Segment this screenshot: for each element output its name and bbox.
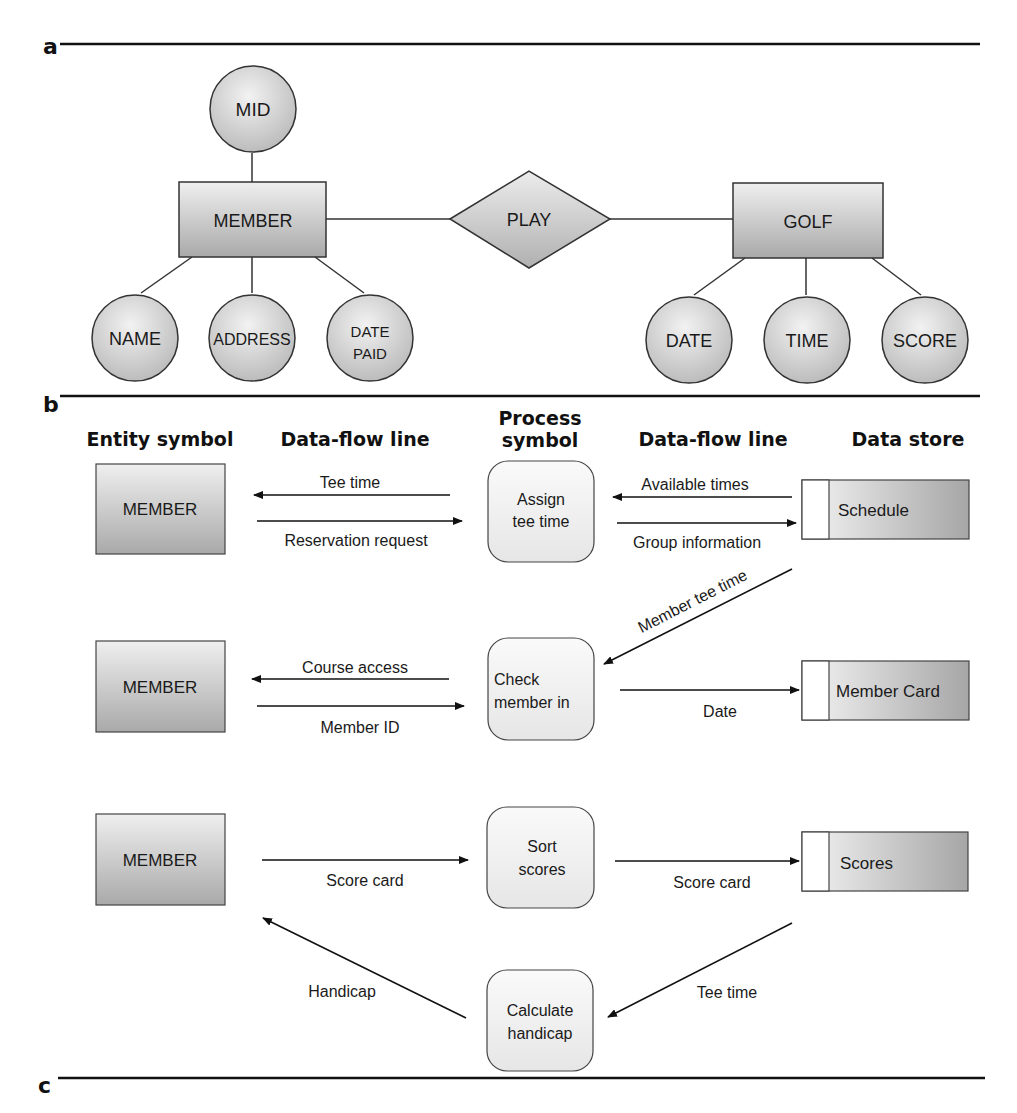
er-diagram: MID MEMBER PLAY GOLF NAME ADDRESS DATE [92, 66, 968, 383]
svg-text:SCORE: SCORE [893, 331, 957, 351]
panel-c-header: c [38, 1073, 985, 1098]
svg-text:scores: scores [518, 861, 565, 878]
attribute-name: NAME [92, 295, 178, 381]
header-data-store: Data store [852, 428, 965, 450]
dfd-row-2: MEMBER Course access Member ID Check mem… [96, 638, 969, 740]
svg-text:NAME: NAME [109, 329, 161, 349]
flow-label: Score card [326, 872, 403, 889]
process-assign-tee-time: Assign tee time [488, 461, 594, 562]
svg-text:ADDRESS: ADDRESS [213, 331, 290, 348]
entity-member-3: MEMBER [96, 814, 225, 905]
process-calculate-handicap: Calculate handicap [487, 970, 593, 1071]
header-data-flow-left: Data-flow line [280, 428, 429, 450]
panel-a-header: a [43, 34, 980, 59]
attribute-address: ADDRESS [209, 295, 295, 381]
dfd-row-3: MEMBER Score card Sort scores Score card… [96, 807, 968, 908]
svg-text:MEMBER: MEMBER [123, 500, 198, 519]
flow-label: Tee time [320, 474, 381, 491]
panel-label-c: c [38, 1073, 51, 1098]
svg-text:PLAY: PLAY [507, 210, 552, 230]
store-member-card: Member Card [802, 661, 969, 720]
svg-text:Sort: Sort [527, 838, 557, 855]
process-sort-scores: Sort scores [487, 807, 594, 908]
svg-text:Member tee time: Member tee time [635, 566, 750, 636]
panel-label-b: b [43, 392, 59, 417]
flow-label: Score card [673, 874, 750, 891]
header-entity-symbol: Entity symbol [87, 428, 234, 450]
process-check-member-in: Check member in [488, 638, 594, 740]
svg-text:tee time: tee time [513, 513, 570, 530]
flow-label: Tee time [697, 984, 758, 1001]
flow-label: Group information [633, 534, 761, 551]
svg-text:MEMBER: MEMBER [123, 678, 198, 697]
flow-label: Handicap [308, 983, 376, 1000]
store-scores: Scores [802, 832, 968, 891]
store-schedule: Schedule [802, 480, 969, 539]
attribute-score: SCORE [882, 297, 968, 383]
svg-text:Assign: Assign [517, 491, 565, 508]
header-process-line2: symbol [502, 429, 579, 451]
flow-label: Member ID [320, 719, 399, 736]
header-process-line1: Process [498, 407, 581, 429]
dfd-row-1: MEMBER Tee time Reservation request Assi… [96, 461, 969, 562]
svg-text:Member Card: Member Card [836, 682, 940, 701]
attribute-time: TIME [764, 297, 850, 383]
entity-member-2: MEMBER [96, 641, 225, 732]
svg-text:MID: MID [236, 99, 271, 120]
svg-text:handicap: handicap [508, 1025, 573, 1042]
svg-text:GOLF: GOLF [783, 212, 832, 232]
entity-member-1: MEMBER [96, 464, 225, 554]
flow-label: Reservation request [284, 532, 428, 549]
svg-text:MEMBER: MEMBER [213, 211, 292, 231]
svg-text:MEMBER: MEMBER [123, 851, 198, 870]
flow-member-tee-time: Member tee time [604, 566, 792, 664]
svg-text:TIME: TIME [786, 331, 829, 351]
attribute-date-paid: DATE PAID [327, 295, 413, 381]
svg-text:Calculate: Calculate [507, 1002, 574, 1019]
dfd-row-4: Handicap Calculate handicap Tee time [263, 918, 792, 1071]
svg-text:member in: member in [494, 694, 570, 711]
flow-label: Available times [641, 476, 748, 493]
attribute-date: DATE [646, 297, 732, 383]
svg-text:DATE: DATE [351, 323, 390, 340]
entity-golf: GOLF [733, 183, 883, 258]
entity-member: MEMBER [179, 182, 326, 257]
svg-text:PAID: PAID [353, 345, 387, 362]
panel-label-a: a [43, 34, 58, 59]
flow-label: Course access [302, 659, 408, 676]
svg-text:Scores: Scores [840, 854, 893, 873]
header-data-flow-right: Data-flow line [638, 428, 787, 450]
svg-text:Check: Check [494, 671, 540, 688]
flow-label: Date [703, 703, 737, 720]
relationship-play: PLAY [450, 171, 610, 268]
svg-text:DATE: DATE [666, 331, 713, 351]
attribute-mid: MID [210, 66, 296, 152]
svg-text:Schedule: Schedule [838, 501, 909, 520]
diagram-canvas: a b c MID MEMBER PLAY [0, 0, 1017, 1113]
legend-headers: Entity symbol Data-flow line Process sym… [87, 407, 965, 451]
